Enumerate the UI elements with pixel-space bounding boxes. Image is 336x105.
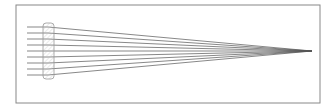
ray-diagram: [0, 0, 336, 105]
convex-lens: [43, 23, 54, 79]
